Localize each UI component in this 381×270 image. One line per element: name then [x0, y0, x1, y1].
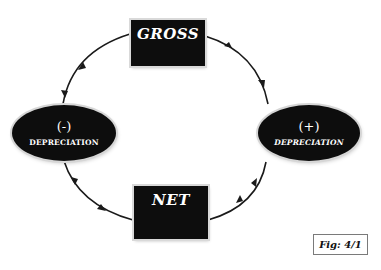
gross-net-depreciation-cycle-diagram: GROSS NET (-) DEPRECIATION (+) DEPRECIAT…	[0, 0, 381, 270]
minus-depreciation-node: (-) DEPRECIATION	[12, 105, 116, 161]
net-label: NET	[152, 191, 190, 209]
arrow-icon	[258, 80, 265, 88]
edge-gross-to-minus	[63, 34, 130, 104]
plus-sign: (+)	[298, 119, 319, 134]
minus-depreciation-label: DEPRECIATION	[29, 138, 99, 148]
gross-label: GROSS	[137, 25, 199, 43]
edge-minus-to-net	[64, 161, 133, 220]
arrow-icon	[236, 195, 243, 203]
arrow-icon	[71, 177, 78, 185]
net-node: NET	[134, 186, 208, 239]
arrow-icon	[61, 90, 68, 98]
arrow-icon	[251, 178, 257, 187]
plus-depreciation-node: (+) DEPRECIATION	[258, 105, 360, 161]
plus-depreciation-label: DEPRECIATION	[274, 138, 344, 148]
edge-plus-to-gross	[205, 36, 268, 104]
edge-net-to-plus	[208, 162, 266, 220]
minus-sign: (-)	[57, 119, 72, 134]
figure-label: Fig: 4/1	[313, 234, 368, 255]
gross-node: GROSS	[131, 20, 205, 66]
